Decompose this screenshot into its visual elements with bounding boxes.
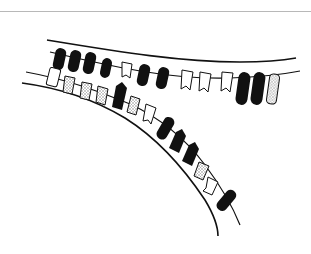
upper-strand-outer-line	[47, 40, 296, 62]
strand-diagram	[0, 0, 311, 254]
lower-strand-backbone	[26, 72, 240, 225]
lower-curve-elements	[155, 115, 239, 213]
